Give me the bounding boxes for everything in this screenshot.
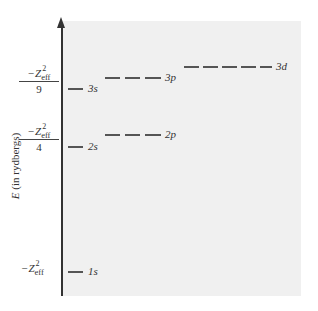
level-3s bbox=[68, 88, 83, 90]
energy-label-n2: −Z2eff 4 bbox=[19, 126, 59, 153]
orbital-dash bbox=[145, 77, 161, 79]
level-2p bbox=[105, 134, 161, 136]
subscript: eff bbox=[41, 72, 50, 82]
orbital-dash bbox=[241, 66, 256, 68]
orbital-dash bbox=[260, 66, 272, 68]
y-axis-symbol: E bbox=[9, 192, 21, 199]
label-2p: 2p bbox=[165, 129, 176, 140]
orbital-dash bbox=[184, 66, 199, 68]
denominator: 4 bbox=[19, 140, 59, 153]
label-3s: 3s bbox=[88, 83, 98, 94]
diagram-panel bbox=[63, 21, 301, 296]
energy-label-n1: −Z2eff bbox=[21, 262, 44, 274]
label-3p: 3p bbox=[165, 72, 176, 83]
energy-label-n3: −Z2eff 9 bbox=[19, 68, 59, 95]
denominator: 9 bbox=[19, 82, 59, 95]
orbital-dash bbox=[145, 134, 161, 136]
level-3p bbox=[105, 77, 161, 79]
orbital-dash bbox=[105, 134, 120, 136]
orbital-dash bbox=[222, 66, 237, 68]
orbital-dash bbox=[68, 88, 83, 90]
z-term: −Z bbox=[28, 67, 42, 79]
z-term: −Z bbox=[28, 125, 42, 137]
label-3d: 3d bbox=[276, 61, 287, 72]
orbital-dash bbox=[68, 271, 83, 273]
orbital-dash bbox=[125, 134, 140, 136]
level-1s bbox=[68, 271, 83, 273]
orbital-dash bbox=[105, 77, 120, 79]
subscript: eff bbox=[35, 267, 44, 277]
label-2s: 2s bbox=[88, 141, 98, 152]
label-1s: 1s bbox=[88, 266, 98, 277]
energy-axis bbox=[61, 26, 63, 296]
subscript: eff bbox=[41, 130, 50, 140]
orbital-dash bbox=[125, 77, 140, 79]
z-term: −Z bbox=[21, 262, 35, 274]
orbital-dash bbox=[203, 66, 218, 68]
orbital-dash bbox=[68, 146, 83, 148]
level-2s bbox=[68, 146, 83, 148]
level-3d bbox=[184, 66, 272, 68]
